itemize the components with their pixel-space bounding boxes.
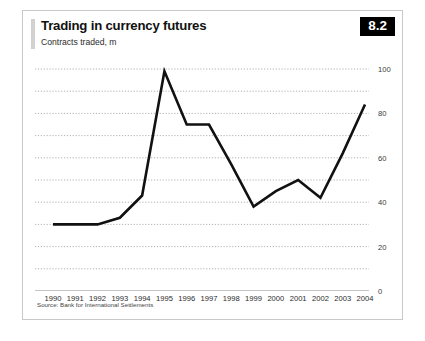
- figure-number-badge: 8.2: [360, 17, 395, 36]
- x-axis-tick-label: 2000: [267, 294, 284, 303]
- chart-subtitle: Contracts traded, m: [41, 37, 116, 47]
- plot-area: [35, 59, 369, 291]
- x-axis-tick-label: 2002: [312, 294, 329, 303]
- y-axis-tick-label: 40: [378, 198, 386, 207]
- data-series-line: [53, 71, 365, 224]
- x-axis-tick-label: 1998: [223, 294, 240, 303]
- chart-figure: Trading in currency futures Contracts tr…: [22, 10, 403, 320]
- source-note: Source: Bank for International Settlemen…: [37, 301, 153, 308]
- x-axis-tick-label: 1995: [156, 294, 173, 303]
- x-axis-tick-label: 2001: [290, 294, 307, 303]
- chart-header: Trading in currency futures Contracts tr…: [23, 11, 402, 57]
- x-axis-tick-label: 2003: [334, 294, 351, 303]
- x-axis-tick-label: 1999: [245, 294, 262, 303]
- gridlines-group: [35, 69, 369, 269]
- line-chart-svg: [35, 59, 369, 291]
- x-axis-tick-label: 1997: [201, 294, 218, 303]
- y-axis-tick-label: 20: [378, 242, 386, 251]
- page-title: Trading in currency futures: [41, 18, 206, 33]
- x-axis-tick-label: 1996: [178, 294, 195, 303]
- y-axis-tick-label: 100: [378, 65, 391, 74]
- y-axis-tick-label: 0: [378, 287, 382, 296]
- y-axis-tick-label: 60: [378, 153, 386, 162]
- y-axis-tick-label: 80: [378, 109, 386, 118]
- y-axis-labels: 020406080100: [373, 59, 403, 291]
- x-axis-tick-label: 2004: [357, 294, 374, 303]
- title-accent-rule: [31, 19, 35, 49]
